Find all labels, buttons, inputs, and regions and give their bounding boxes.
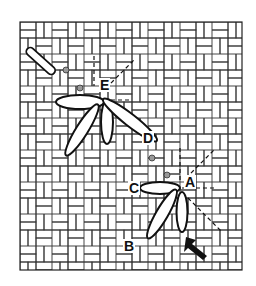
label-c: C: [128, 181, 140, 195]
label-d: D: [142, 131, 154, 145]
label-e: E: [99, 78, 110, 92]
canvas-grid: [20, 22, 242, 270]
label-b: B: [123, 239, 135, 253]
label-a: A: [184, 175, 196, 189]
